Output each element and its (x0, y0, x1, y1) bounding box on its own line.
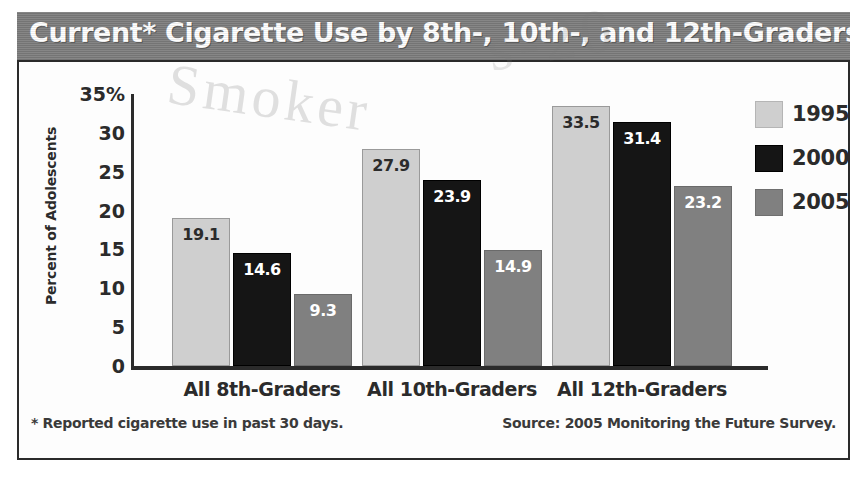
bar-1995-all-12th-graders[interactable]: 33.5 (552, 106, 610, 366)
source-text: Source: 2005 Monitoring the Future Surve… (502, 415, 836, 431)
bar-2000-all-8th-graders[interactable]: 14.6 (233, 253, 291, 366)
bar-value-label: 23.9 (424, 187, 480, 206)
plot-area: Percent of Adolescents 35%302520151050 1… (17, 60, 850, 460)
bar-group: 33.531.423.2 (552, 94, 732, 366)
y-axis-tick-10: 10 (25, 279, 125, 298)
chart-legend: 199520002005 (755, 96, 850, 228)
y-axis-tick-25: 25 (25, 163, 125, 182)
y-axis-tick-0: 0 (25, 357, 125, 376)
page-title: Current* Cigarette Use by 8th-, 10th-, a… (29, 17, 850, 48)
x-axis-category-label: All 12th-Graders (522, 378, 762, 400)
y-axis-tick-20: 20 (25, 202, 125, 221)
bar-value-label: 14.9 (485, 257, 541, 276)
bar-value-label: 23.2 (675, 193, 731, 212)
bar-value-label: 27.9 (363, 156, 419, 175)
bar-1995-all-10th-graders[interactable]: 27.9 (362, 149, 420, 366)
bar-value-label: 14.6 (234, 260, 290, 279)
legend-swatch-1995 (755, 101, 783, 128)
bar-2005-all-12th-graders[interactable]: 23.2 (674, 186, 732, 366)
bar-2005-all-8th-graders[interactable]: 9.3 (294, 294, 352, 366)
legend-item-1995[interactable]: 1995 (755, 96, 850, 132)
legend-label-2000: 2000 (792, 146, 849, 170)
bar-value-label: 19.1 (173, 225, 229, 244)
y-axis-tick-labels: 35%302520151050 (17, 60, 125, 460)
footnote-text: * Reported cigarette use in past 30 days… (31, 415, 343, 431)
legend-label-2005: 2005 (792, 190, 849, 214)
bar-2000-all-12th-graders[interactable]: 31.4 (613, 122, 671, 366)
y-axis-tick-15: 15 (25, 240, 125, 259)
bar-group: 27.923.914.9 (362, 94, 542, 366)
bars-layer: 19.114.69.327.923.914.933.531.423.2 (134, 94, 768, 366)
chart-title-bar: Current* Cigarette Use by 8th-, 10th-, a… (17, 12, 850, 61)
legend-item-2000[interactable]: 2000 (755, 140, 850, 176)
bar-2005-all-10th-graders[interactable]: 14.9 (484, 250, 542, 366)
bar-2000-all-10th-graders[interactable]: 23.9 (423, 180, 481, 366)
bar-group: 19.114.69.3 (172, 94, 352, 366)
chart-figure: Current* Cigarette Use by 8th-, 10th-, a… (17, 12, 850, 460)
bar-value-label: 33.5 (553, 113, 609, 132)
legend-swatch-2000 (755, 145, 783, 172)
bar-value-label: 31.4 (614, 129, 670, 148)
x-axis-line (131, 366, 768, 370)
legend-item-2005[interactable]: 2005 (755, 184, 850, 220)
bar-1995-all-8th-graders[interactable]: 19.1 (172, 218, 230, 366)
y-axis-tick-30: 30 (25, 124, 125, 143)
legend-label-1995: 1995 (792, 102, 849, 126)
bar-value-label: 9.3 (295, 301, 351, 320)
legend-swatch-2005 (755, 189, 783, 216)
y-axis-tick-5: 5 (25, 318, 125, 337)
y-axis-tick-35: 35% (25, 85, 125, 104)
